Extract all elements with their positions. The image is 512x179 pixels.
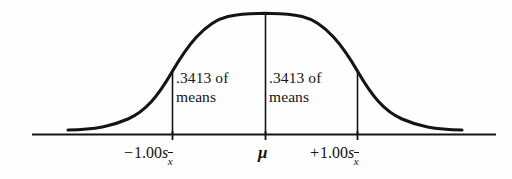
region-right-line1: .3413 of — [269, 68, 355, 87]
minus-sign: − — [124, 144, 133, 161]
plus-sd-subscript-xbar: x — [354, 152, 359, 170]
plus-sd-value: 1.00 — [320, 144, 348, 161]
minus-sd-subscript-xbar: x — [168, 152, 173, 170]
region-left-line2: means — [176, 87, 262, 106]
minus-sd-subscript: x — [168, 155, 173, 167]
axis-label-minus-one-sd: −1.00sx — [124, 144, 173, 167]
region-right-line2: means — [269, 87, 355, 106]
mu-symbol: μ — [258, 143, 267, 162]
axis-label-mean: μ — [258, 144, 267, 162]
region-label-left: .3413 of means — [176, 68, 262, 106]
normal-distribution-figure: .3413 of means .3413 of means −1.00sx μ … — [0, 0, 512, 179]
plus-sd-subscript: x — [354, 155, 359, 167]
region-left-line1: .3413 of — [176, 68, 262, 87]
axis-label-plus-one-sd: +1.00sx — [310, 144, 359, 167]
plus-sign: + — [310, 144, 319, 161]
minus-sd-value: 1.00 — [134, 144, 162, 161]
region-label-right: .3413 of means — [269, 68, 355, 106]
